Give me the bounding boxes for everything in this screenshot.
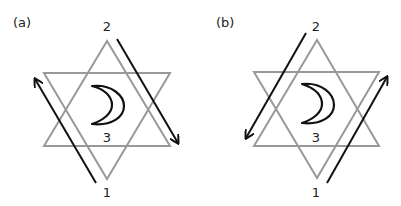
vertex-label-bottom: 1	[103, 186, 111, 199]
panel-label: (a)	[13, 16, 31, 29]
vertex-label-top: 2	[103, 20, 111, 33]
crescent-moon-icon	[92, 86, 124, 125]
panel-label: (b)	[216, 16, 234, 29]
arrow-left-up	[35, 79, 96, 183]
vertex-label-center: 3	[312, 131, 320, 144]
arrow-right-up	[327, 77, 387, 183]
hexagram-diagram-b	[200, 0, 400, 206]
vertex-label-bottom: 1	[312, 186, 320, 199]
crescent-moon-icon	[302, 84, 334, 123]
panel-a: (a) 2 3 1	[0, 0, 200, 206]
arrow-right-down	[117, 39, 178, 143]
vertex-label-top: 2	[312, 20, 320, 33]
hexagram-diagram-a	[0, 0, 200, 206]
vertex-label-center: 3	[103, 131, 111, 144]
star-of-david-icon	[44, 41, 170, 179]
arrow-left-down	[246, 33, 306, 138]
star-of-david-icon	[254, 40, 379, 178]
panel-b: (b) 2 3 1	[200, 0, 400, 206]
